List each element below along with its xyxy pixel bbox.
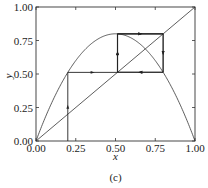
x-tick-label: 0.25 xyxy=(66,142,86,154)
arrow-icon xyxy=(138,32,142,35)
arrow-icon xyxy=(66,105,69,109)
arrow-icon xyxy=(116,51,119,55)
y-tick-labels: 0.000.250.500.751.00 xyxy=(14,1,34,147)
cobweb-chart: 0.000.250.500.751.00 0.000.250.500.751.0… xyxy=(0,0,208,188)
y-tick-label: 0.75 xyxy=(14,35,34,47)
cobweb-path xyxy=(66,32,164,141)
arrow-icon xyxy=(91,71,95,74)
arrow-icon xyxy=(162,51,165,55)
y-axis-label: y xyxy=(2,73,14,79)
logistic-curve xyxy=(36,34,195,141)
y-tick-label: 1.00 xyxy=(14,1,34,13)
x-tick-label: 1.00 xyxy=(185,142,205,154)
arrow-icon xyxy=(138,71,142,74)
x-axis-label: x xyxy=(112,150,118,162)
y-tick-label: 0.50 xyxy=(14,68,34,80)
x-tick-label: 0.75 xyxy=(146,142,166,154)
y-tick-label: 0.25 xyxy=(14,102,34,114)
y-tick-label: 0.00 xyxy=(14,135,34,147)
figure-caption: (c) xyxy=(109,171,122,184)
diagonal-line xyxy=(36,7,195,141)
